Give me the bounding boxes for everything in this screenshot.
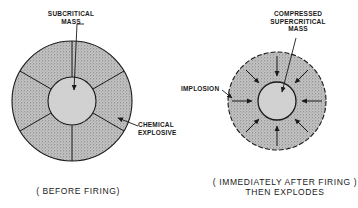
supercritical-core xyxy=(258,82,296,120)
label-line: SUBCRITICAL xyxy=(42,10,100,18)
subcritical-mass-label: SUBCRITICAL MASS xyxy=(42,10,100,25)
label-line: MASS xyxy=(262,25,334,33)
caption-line: THEN EXPLODES xyxy=(210,187,358,197)
after-firing-caption: ( IMMEDIATELY AFTER FIRING ) THEN EXPLOD… xyxy=(210,177,358,197)
label-line: CHEMICAL xyxy=(138,121,184,129)
implosion-label: IMPLOSION xyxy=(181,85,223,93)
label-line: COMPRESSED xyxy=(262,10,334,18)
caption-line: ( IMMEDIATELY AFTER FIRING ) xyxy=(210,177,358,187)
after-firing-assembly xyxy=(222,38,326,150)
before-firing-caption: ( BEFORE FIRING) xyxy=(28,186,128,196)
label-line: EXPLOSIVE xyxy=(138,129,184,137)
label-line: MASS xyxy=(42,18,100,26)
chemical-explosive-label: CHEMICAL EXPLOSIVE xyxy=(138,121,184,136)
before-firing-assembly xyxy=(12,24,138,161)
compressed-supercritical-mass-label: COMPRESSED SUPERCRITICAL MASS xyxy=(262,10,334,33)
label-line: SUPERCRITICAL xyxy=(262,18,334,26)
subcritical-core xyxy=(48,77,96,125)
